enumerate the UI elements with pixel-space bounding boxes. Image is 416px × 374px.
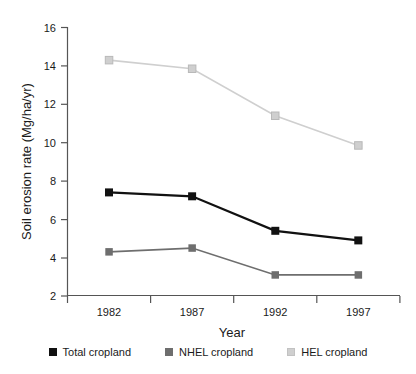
x-axis-ticks [68, 296, 400, 303]
data-point-marker [188, 244, 196, 252]
y-tick-label-14: 14 [44, 60, 56, 72]
data-point-marker [355, 142, 363, 150]
y-tick-label-10: 10 [44, 137, 56, 149]
data-point-marker [188, 192, 196, 200]
legend-swatch-icon-nhel-cropland [165, 348, 173, 356]
legend: Total cropland NHEL cropland HEL croplan… [0, 341, 416, 363]
data-point-marker [105, 56, 113, 64]
x-axis-title: Year [219, 325, 246, 340]
y-tick-labels: 16 14 12 10 8 6 4 2 [44, 22, 56, 303]
data-point-marker [105, 188, 113, 196]
data-point-marker [272, 112, 280, 120]
y-tick-label-12: 12 [44, 98, 56, 110]
x-tick-label-1997: 1997 [346, 306, 370, 318]
y-tick-label-8: 8 [50, 175, 56, 187]
data-point-marker [105, 248, 113, 256]
soil-erosion-line-chart: 16 14 12 10 8 6 4 2 1982 1987 1992 1997 … [0, 0, 416, 374]
y-tick-label-6: 6 [50, 214, 56, 226]
y-axis-title: Soil erosion rate (Mg/ha/yr) [19, 83, 34, 240]
legend-swatch-icon-hel-cropland [287, 348, 295, 356]
data-point-marker [355, 271, 363, 279]
data-point-marker [271, 227, 279, 235]
series-hel-cropland [105, 56, 362, 149]
series-line [109, 192, 358, 240]
legend-label-nhel-cropland: NHEL cropland [179, 346, 253, 358]
series-line [109, 248, 358, 275]
data-point-marker [354, 236, 362, 244]
series-line [109, 60, 358, 145]
chart-canvas: 16 14 12 10 8 6 4 2 1982 1987 1992 1997 … [0, 0, 416, 374]
legend-item-total-cropland[interactable]: Total cropland [49, 346, 132, 358]
series-nhel-cropland [105, 244, 362, 278]
data-point-marker [188, 65, 196, 73]
y-axis-ticks [61, 28, 68, 297]
legend-item-hel-cropland[interactable]: HEL cropland [287, 346, 367, 358]
legend-label-hel-cropland: HEL cropland [301, 346, 367, 358]
axis-lines [68, 27, 401, 296]
y-tick-label-4: 4 [50, 252, 56, 264]
x-tick-label-1987: 1987 [180, 306, 204, 318]
data-series-layer [105, 56, 362, 278]
data-point-marker [272, 271, 280, 279]
x-tick-labels: 1982 1987 1992 1997 [97, 306, 371, 318]
legend-item-nhel-cropland[interactable]: NHEL cropland [165, 346, 253, 358]
y-tick-label-2: 2 [50, 290, 56, 302]
legend-swatch-icon-total-cropland [49, 348, 57, 356]
legend-label-total-cropland: Total cropland [63, 346, 132, 358]
y-tick-label-16: 16 [44, 22, 56, 34]
series-total-cropland [105, 188, 362, 244]
x-tick-label-1982: 1982 [97, 306, 121, 318]
x-tick-label-1992: 1992 [263, 306, 287, 318]
